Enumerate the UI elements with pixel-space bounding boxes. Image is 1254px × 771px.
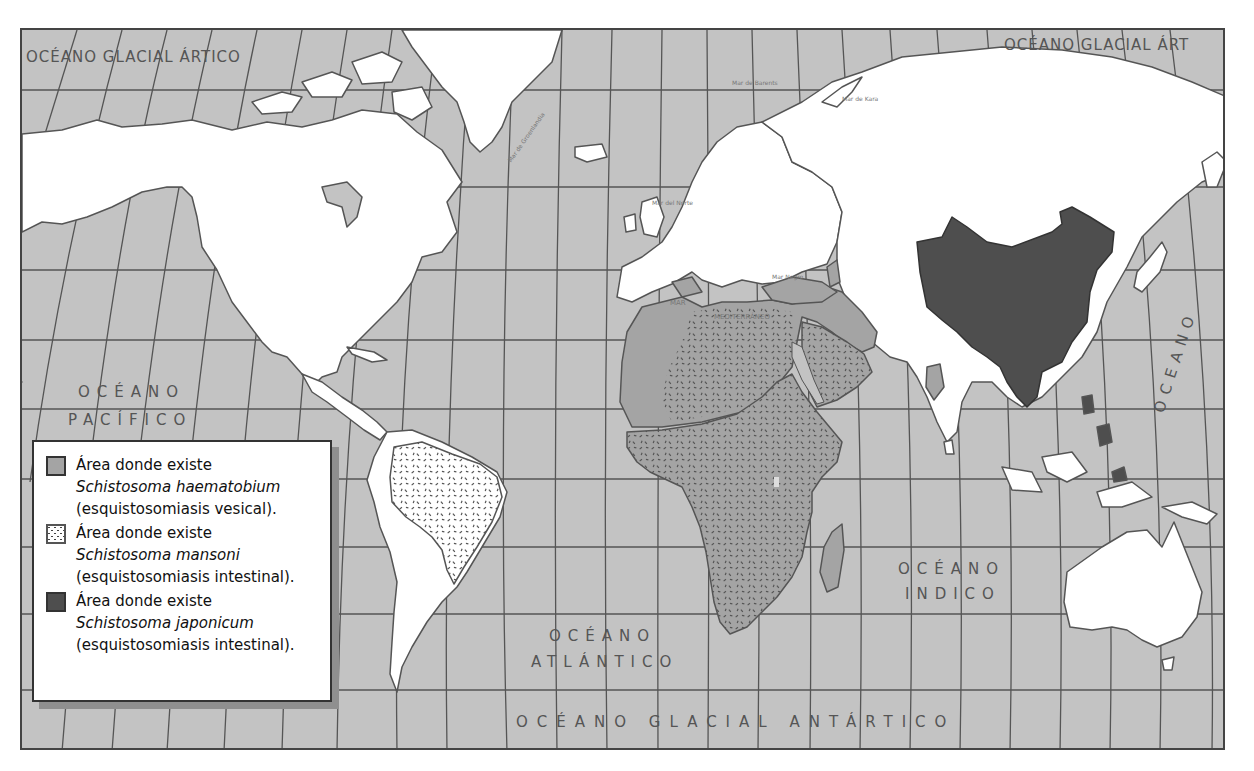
label-mediterranean-2: MEDITERRÁNEO	[714, 314, 770, 322]
label-arctic-ocean-right: OCÉANO GLACIAL ÁRT	[1004, 38, 1189, 53]
label-black-sea: Mar Negro	[772, 274, 803, 281]
label-atlantic-ocean-1: OCÉANO	[549, 629, 656, 644]
legend-disease: (esquistosomiasis vesical).	[76, 498, 280, 520]
legend-line: Área donde existe	[76, 590, 295, 612]
label-north-sea: Mar del Norte	[652, 200, 678, 207]
mansoni-swatch	[46, 524, 66, 544]
label-indian-ocean-1: OCÉANO	[898, 562, 1005, 577]
label-mediterranean-1: MAR	[670, 300, 686, 308]
legend-species: Schistosoma japonicum	[76, 612, 295, 634]
legend: Área donde existe Schistosoma haematobiu…	[32, 440, 332, 702]
label-pacific-ocean-2: PACÍFICO	[68, 413, 192, 428]
label-antarctic-ocean: OCÉANO GLACIAL ANTÁRTICO	[516, 715, 955, 730]
legend-species: Schistosoma mansoni	[76, 544, 295, 566]
legend-item-mansoni: Área donde existe Schistosoma mansoni (e…	[46, 522, 320, 588]
dotted-pattern-icon	[48, 526, 64, 542]
label-indian-ocean-2: INDICO	[905, 587, 1001, 602]
label-pacific-ocean-1: OCÉANO	[78, 385, 185, 400]
japonicum-swatch	[46, 592, 66, 612]
legend-species: Schistosoma haematobium	[76, 476, 280, 498]
legend-line: Área donde existe	[76, 454, 280, 476]
legend-disease: (esquistosomiasis intestinal).	[76, 566, 295, 588]
legend-item-japonicum: Área donde existe Schistosoma japonicum …	[46, 590, 320, 656]
label-barents-sea: Mar de Barents	[732, 80, 762, 87]
label-arctic-ocean-left: OCÉANO GLACIAL ÁRTICO	[26, 50, 241, 65]
label-kara-sea: Mar de Kara	[842, 96, 870, 103]
legend-item-haematobium: Área donde existe Schistosoma haematobiu…	[46, 454, 320, 520]
label-atlantic-ocean-2: ATLÁNTICO	[531, 655, 678, 670]
haematobium-swatch	[46, 456, 66, 476]
legend-line: Área donde existe	[76, 522, 295, 544]
legend-disease: (esquistosomiasis intestinal).	[76, 634, 295, 656]
